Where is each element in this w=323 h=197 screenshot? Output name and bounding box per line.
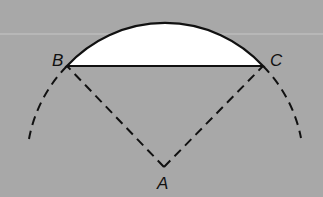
dashed-arc-right xyxy=(263,66,301,138)
radius-ab xyxy=(67,66,164,167)
diagram-canvas: B C A xyxy=(0,0,323,197)
label-b: B xyxy=(52,51,63,70)
radius-ac xyxy=(164,66,263,167)
geometry-figure: B C A xyxy=(0,0,323,197)
dashed-arc-left xyxy=(29,66,67,139)
label-a: A xyxy=(156,174,168,193)
circular-segment xyxy=(67,23,263,66)
label-c: C xyxy=(270,51,283,70)
